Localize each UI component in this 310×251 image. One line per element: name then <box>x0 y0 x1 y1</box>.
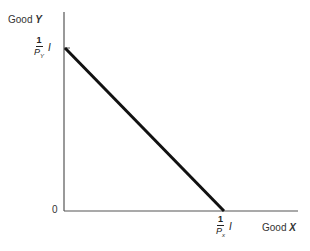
x-intercept-label: 1 Px I <box>216 215 232 238</box>
budget-line <box>65 48 224 211</box>
y-intercept-label: 1 PY I <box>34 36 51 59</box>
y-axis-label: Good Y <box>8 14 42 25</box>
origin-label: 0 <box>52 204 58 215</box>
x-axis-label: Good X <box>262 222 296 233</box>
